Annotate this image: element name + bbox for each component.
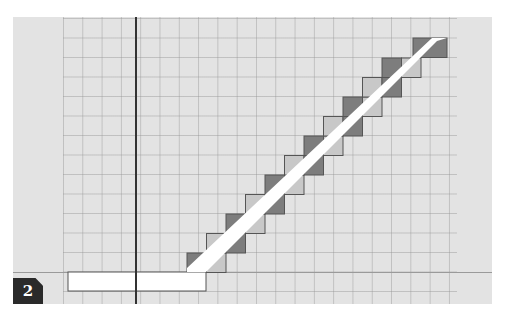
figure-number-badge: 2 xyxy=(13,278,43,304)
vertical-axis xyxy=(135,17,137,304)
staircase-diagram xyxy=(0,0,510,314)
horizontal-bar xyxy=(68,272,206,291)
